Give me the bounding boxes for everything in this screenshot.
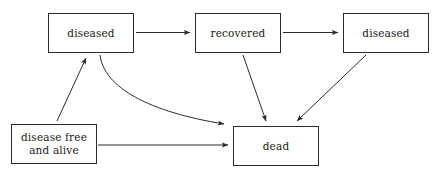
node-dead[interactable]: dead (233, 126, 319, 166)
node-disease-free-alive[interactable]: disease free and alive (11, 124, 97, 164)
node-diseased-top-right[interactable]: diseased (343, 13, 429, 53)
edge-disease-free-to-diseased (57, 58, 86, 121)
edge-recovered-to-dead (243, 55, 266, 121)
edge-diseased-to-dead-curved (100, 55, 224, 124)
node-label: recovered (211, 27, 266, 40)
node-diseased-top-left[interactable]: diseased (48, 13, 134, 53)
state-transition-diagram: diseased recovered diseased disease free… (0, 0, 435, 174)
node-label: diseased (67, 27, 114, 40)
node-label: dead (263, 140, 290, 153)
node-label: diseased (362, 27, 409, 40)
node-recovered[interactable]: recovered (195, 13, 281, 53)
node-label: disease free and alive (21, 131, 87, 157)
edge-diseased-right-to-dead (297, 55, 366, 121)
